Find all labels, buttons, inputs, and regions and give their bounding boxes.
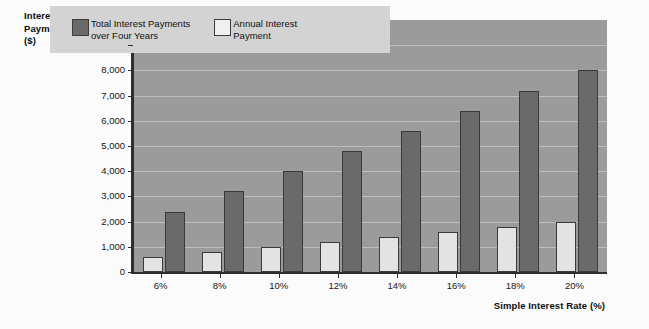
y-axis-tick	[128, 272, 133, 273]
legend-label-annual-line-2: Payment	[233, 30, 271, 41]
chart-legend: Total Interest Payments over Four Years …	[50, 6, 390, 53]
x-axis-title: Simple Interest Rate (%)	[494, 300, 605, 311]
x-axis-tick-label: 14%	[374, 280, 420, 291]
x-axis-tick	[279, 273, 280, 278]
bar-total-10pct	[283, 171, 303, 272]
x-axis-tick	[515, 273, 516, 278]
x-axis-tick	[574, 273, 575, 278]
bar-annual-18pct	[497, 227, 517, 272]
legend-label-total-line-2: over Four Years	[91, 30, 158, 41]
x-axis-tick-label: 16%	[433, 280, 479, 291]
y-axis-tick-label: 0	[81, 266, 125, 277]
y-axis-tick-label: 3,000	[81, 190, 125, 201]
legend-label-total: Total Interest Payments over Four Years	[91, 18, 190, 41]
y-axis-tick-label: 2,000	[81, 216, 125, 227]
bar-total-12pct	[342, 151, 362, 272]
x-axis-tick-label: 6%	[138, 280, 184, 291]
bar-total-6pct	[165, 212, 185, 272]
bar-annual-10pct	[261, 247, 281, 272]
y-axis-tick	[128, 70, 133, 71]
y-axis-tick-labels: 10,0009,0008,0007,0006,0005,0004,0003,00…	[77, 20, 125, 272]
legend-label-annual: Annual Interest Payment	[233, 18, 297, 41]
y-axis-tick-label: 4,000	[81, 165, 125, 176]
legend-swatch-annual-icon	[214, 19, 231, 36]
bar-annual-20pct	[556, 222, 576, 272]
y-axis-tick-label: 1,000	[81, 241, 125, 252]
bar-annual-8pct	[202, 252, 222, 272]
x-axis-tick-label: 12%	[315, 280, 361, 291]
y-axis-tick	[128, 146, 133, 147]
bar-total-18pct	[519, 91, 539, 272]
x-axis-tick	[456, 273, 457, 278]
y-axis-tick	[128, 247, 133, 248]
legend-entry-annual: Annual Interest Payment	[214, 18, 297, 41]
y-axis-tick	[128, 222, 133, 223]
legend-swatch-total-icon	[72, 19, 89, 36]
y-axis-tick	[128, 196, 133, 197]
x-axis-tick	[397, 273, 398, 278]
y-axis-tick-label: 5,000	[81, 140, 125, 151]
bar-total-8pct	[224, 191, 244, 272]
y-axis-tick	[128, 45, 133, 46]
bar-annual-14pct	[379, 237, 399, 272]
x-axis-tick	[161, 273, 162, 278]
plot-area	[131, 20, 607, 274]
x-axis-tick-label: 8%	[197, 280, 243, 291]
legend-label-total-line-1: Total Interest Payments	[91, 18, 190, 29]
bar-annual-6pct	[143, 257, 163, 272]
bar-total-16pct	[460, 111, 480, 272]
y-axis-tick-label: 7,000	[81, 90, 125, 101]
x-axis-tick-label: 20%	[551, 280, 597, 291]
x-axis-tick-label: 10%	[256, 280, 302, 291]
y-axis-tick	[128, 171, 133, 172]
bar-total-14pct	[401, 131, 421, 272]
bar-annual-12pct	[320, 242, 340, 272]
x-axis-tick-label: 18%	[492, 280, 538, 291]
legend-label-annual-line-1: Annual Interest	[233, 18, 297, 29]
legend-entry-total: Total Interest Payments over Four Years	[72, 18, 190, 41]
bar-total-20pct	[578, 70, 598, 272]
chart-figure: Interest Payments ($) 10,0009,0008,0007,…	[0, 0, 649, 329]
y-axis-tick-label: 6,000	[81, 115, 125, 126]
gridline	[134, 70, 607, 71]
y-axis-tick-label: 8,000	[81, 64, 125, 75]
y-axis-tick	[128, 121, 133, 122]
x-axis-tick	[220, 273, 221, 278]
y-axis-tick	[128, 96, 133, 97]
x-axis-tick	[338, 273, 339, 278]
bar-annual-16pct	[438, 232, 458, 272]
